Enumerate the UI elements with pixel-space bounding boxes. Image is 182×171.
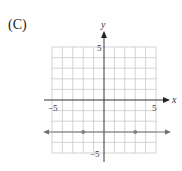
y-tick-min: −5: [90, 149, 100, 159]
x-tick-min: −5: [48, 103, 58, 113]
point-3-neg3: [133, 130, 137, 134]
point-neg2-neg3: [81, 130, 85, 134]
x-axis-arrow-icon: [163, 97, 170, 103]
x-axis: x −5 5: [44, 94, 177, 113]
line-right-arrow-icon: [165, 130, 171, 135]
line-left-arrow-icon: [43, 130, 49, 135]
y-axis-label: y: [100, 19, 106, 30]
y-axis: y 5 −5: [90, 19, 107, 162]
x-axis-label: x: [171, 94, 177, 105]
y-axis-arrow-icon: [101, 31, 107, 38]
x-tick-max: 5: [152, 103, 157, 113]
y-tick-max: 5: [97, 43, 102, 53]
coordinate-plane: x −5 5 y 5 −5: [0, 0, 182, 171]
